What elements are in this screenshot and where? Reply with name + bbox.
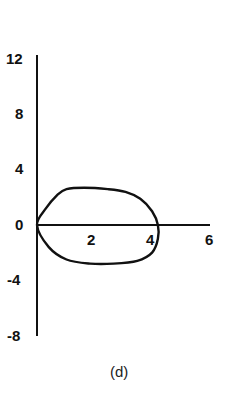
x-tick-label: 4 (146, 232, 154, 247)
y-tick-label: 0 (15, 217, 23, 232)
plot-area (0, 0, 249, 394)
y-tick-label: 8 (15, 106, 23, 121)
y-tick-label: 12 (6, 51, 23, 66)
x-tick-label: 6 (205, 232, 213, 247)
y-tick-label: 4 (15, 161, 23, 176)
figure-caption: (d) (110, 364, 128, 379)
y-tick-label: -4 (7, 272, 20, 287)
y-tick-label: -8 (7, 328, 20, 343)
x-tick-label: 2 (87, 232, 95, 247)
